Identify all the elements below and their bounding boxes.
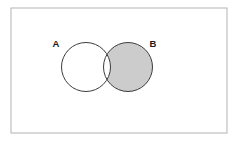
set-label-b: B (150, 38, 157, 49)
venn-diagram-canvas: A B (0, 0, 235, 141)
venn-diagram-figure: A B (0, 0, 235, 141)
shaded-region-b-minus-a (0, 0, 235, 141)
set-label-a: A (53, 38, 60, 49)
